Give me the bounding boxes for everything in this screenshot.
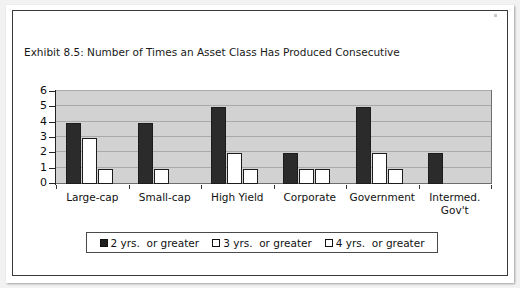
y-axis-tick — [49, 122, 55, 123]
legend-item: 2 yrs. or greater — [100, 237, 200, 249]
x-axis-tick-labels: Large-capSmall-capHigh YieldCorporateGov… — [56, 191, 491, 221]
legend-label: 4 yrs. or greater — [336, 237, 425, 249]
x-axis-tick — [419, 185, 420, 189]
bar-group — [274, 91, 347, 184]
x-axis-ticks — [56, 185, 491, 189]
y-axis-tick — [49, 152, 55, 153]
y-axis-tick-label: 0 — [13, 177, 47, 188]
bar — [82, 138, 97, 184]
y-axis-tick-label: 1 — [13, 162, 47, 173]
bar — [98, 169, 113, 184]
bars-layer — [56, 91, 491, 184]
legend-swatch-icon — [100, 239, 108, 247]
x-axis-tick — [346, 185, 347, 189]
x-axis-tick — [201, 185, 202, 189]
legend-swatch-icon — [212, 239, 220, 247]
bar-group — [419, 91, 492, 184]
figure-container: Exhibit 8.5: Number of Times an Asset Cl… — [0, 0, 520, 288]
bar — [299, 169, 314, 184]
y-axis-tick — [49, 137, 55, 138]
bar — [66, 123, 81, 184]
x-axis-tick-label: Corporate — [274, 191, 347, 204]
bar — [428, 153, 443, 184]
y-axis-tick — [49, 91, 55, 92]
y-axis-tick-label: 5 — [13, 100, 47, 111]
x-axis-tick — [129, 185, 130, 189]
y-axis-tick-label: 6 — [13, 85, 47, 96]
x-axis-tick-label-line: Small-cap — [129, 191, 202, 204]
x-axis-tick-label-line: High Yield — [201, 191, 274, 204]
bar-group — [346, 91, 419, 184]
x-axis-tick — [56, 185, 57, 189]
legend-item: 4 yrs. or greater — [325, 237, 425, 249]
bar — [227, 153, 242, 184]
bar — [138, 123, 153, 184]
y-axis-tick-labels: 0123456 — [13, 11, 47, 275]
bar — [243, 169, 258, 184]
x-axis-tick-label: Large-cap — [56, 191, 129, 204]
x-axis-tick-label: High Yield — [201, 191, 274, 204]
x-axis-tick-label-line: Large-cap — [56, 191, 129, 204]
legend-item: 3 yrs. or greater — [212, 237, 312, 249]
legend-label: 3 yrs. or greater — [223, 237, 312, 249]
chart-legend: 2 yrs. or greater3 yrs. or greater4 yrs.… — [86, 232, 438, 253]
x-axis-tick-label-line: Gov't — [419, 204, 492, 217]
y-axis-tick — [49, 168, 55, 169]
bar-group — [201, 91, 274, 184]
bar-group — [129, 91, 202, 184]
y-axis-tick — [49, 106, 55, 107]
x-axis-tick — [274, 185, 275, 189]
y-axis-tick-label: 3 — [13, 131, 47, 142]
x-axis-tick-label: Small-cap — [129, 191, 202, 204]
bar — [154, 169, 169, 184]
legend-swatch-icon — [325, 239, 333, 247]
y-axis-tick — [49, 183, 55, 184]
bar — [283, 153, 298, 184]
x-axis-tick-label-line: Government — [346, 191, 419, 204]
bar — [372, 153, 387, 184]
bar — [211, 107, 226, 184]
x-axis-tick-label: Intermed.Gov't — [419, 191, 492, 217]
bar — [388, 169, 403, 184]
y-axis-tick-label: 4 — [13, 116, 47, 127]
bar-group — [56, 91, 129, 184]
bar — [315, 169, 330, 184]
legend-label: 2 yrs. or greater — [111, 237, 200, 249]
y-axis-tick-label: 2 — [13, 146, 47, 157]
x-axis-tick-label: Government — [346, 191, 419, 204]
chart-panel: Exhibit 8.5: Number of Times an Asset Cl… — [12, 10, 508, 276]
x-axis-tick-label-line: Corporate — [274, 191, 347, 204]
bar — [356, 107, 371, 184]
x-axis-tick-label-line: Intermed. — [419, 191, 492, 204]
x-axis-tick — [491, 185, 492, 189]
